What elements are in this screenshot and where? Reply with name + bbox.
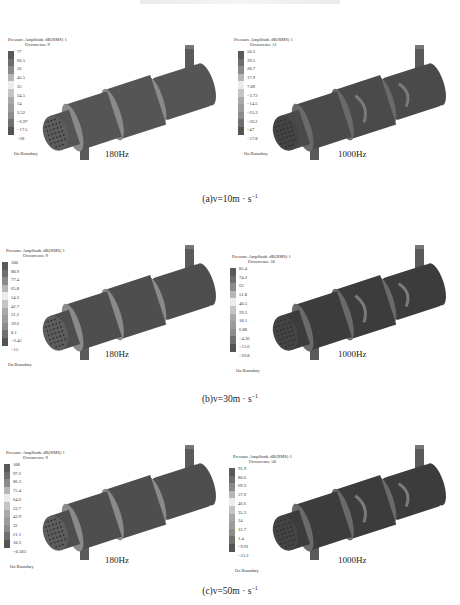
legend-tick-label: 29.3: [239, 310, 247, 315]
color-scale-segment: [4, 510, 10, 518]
legend-tick-label: 3.52: [17, 110, 25, 115]
color-scale-segment: [238, 81, 244, 89]
legend-tick-label: 51.8: [239, 292, 247, 297]
legend-tick-label: 31.2: [11, 312, 19, 317]
legend-title-text: Pressure Amplitude dB(RMS) 1: [6, 450, 65, 455]
legend-tick-label: 24.5: [17, 93, 25, 98]
color-scale-segment: [229, 468, 235, 476]
color-scale-segment: [2, 270, 8, 278]
color-scale: [8, 51, 14, 135]
color-scale-segment: [230, 276, 236, 284]
legend-title-text: Pressure Amplitude dB(RMS) 1: [234, 37, 293, 42]
legend-tick-label: −28: [17, 136, 24, 141]
on-boundary-label: On Boundary: [236, 368, 260, 373]
legend-tick-label: 42.7: [11, 304, 19, 309]
legend-tick-label: −36.2: [247, 119, 258, 124]
on-boundary-label: On Boundary: [244, 151, 268, 156]
color-scale-segment: [229, 514, 235, 522]
legend-title: Pressure Amplitude dB(RMS) 1Occurrence 5…: [234, 37, 293, 48]
color-scale-segment: [229, 498, 235, 506]
legend-subtitle: Occurrence 51: [234, 42, 293, 47]
legend-title-text: Pressure Amplitude dB(RMS) 1: [8, 37, 67, 42]
color-scale-segment: [2, 338, 8, 346]
color-scale-segment: [230, 321, 236, 329]
caption-text: (b)v=30m · s: [202, 394, 252, 404]
on-boundary-label: On Boundary: [8, 362, 32, 367]
color-scale-segment: [4, 517, 10, 525]
contour-panel: Pressure Amplitude dB(RMS) 1Occurrence 9…: [0, 225, 230, 360]
color-scale-segment: [238, 104, 244, 112]
legend-tick-label: 108: [13, 462, 20, 467]
legend-tick-label: −3.72: [247, 93, 258, 98]
color-scale-segment: [8, 97, 14, 105]
caption-text: (c)v=50m · s: [202, 586, 251, 596]
legend-tick-label: 66.5: [17, 58, 25, 63]
legend-tick-label: 63: [239, 283, 244, 288]
caption-exponent: −1: [252, 393, 258, 399]
color-scale-segment: [2, 300, 8, 308]
contour-panel: Pressure Amplitude dB(RMS) 1Occurrence 5…: [230, 25, 460, 160]
legend-tick-label: 45.5: [17, 75, 25, 80]
frequency-label: 1000Hz: [338, 349, 367, 359]
legend-tick-label: 21.1: [13, 532, 21, 537]
color-legend: Pressure Amplitude dB(RMS) 1Occurrence 5…: [230, 425, 340, 560]
color-scale: [230, 268, 236, 352]
color-scale-segment: [8, 81, 14, 89]
legend-tick-label: 65.8: [11, 286, 19, 291]
color-scale-segment: [4, 472, 10, 480]
cropped-header-strip: [140, 0, 340, 4]
outlet-pipe-cap: [415, 245, 424, 249]
legend-tick-label: 18.1: [239, 318, 247, 323]
color-legend: Pressure Amplitude dB(RMS) 1Occurrence 5…: [230, 25, 340, 160]
legend-tick-label: −3.45: [11, 338, 22, 343]
on-boundary-label: On Boundary: [10, 564, 34, 569]
color-scale-segment: [229, 491, 235, 499]
legend-tick-label: 24: [238, 518, 243, 523]
legend-tick-label: −6.97: [17, 119, 28, 124]
legend-tick-label: 77: [17, 49, 22, 54]
color-legend: Pressure Amplitude dB(RMS) 1Occurrence 5…: [230, 225, 340, 360]
subfigure-caption: (a)v=10m · s−1: [130, 194, 330, 204]
on-boundary-label: On Boundary: [14, 151, 38, 156]
legend-tick-label: −47: [247, 127, 254, 132]
color-scale-segment: [2, 308, 8, 316]
color-scale-segment: [2, 277, 8, 285]
color-scale-segment: [229, 483, 235, 491]
legend-tick-label: 64.6: [13, 497, 21, 502]
contour-panel: Pressure Amplitude dB(RMS) 1Occurrence 9…: [0, 425, 230, 560]
color-scale-segment: [229, 476, 235, 484]
legend-tick-label: −15.6: [239, 344, 250, 349]
color-scale-segment: [8, 59, 14, 67]
color-scale-segment: [4, 532, 10, 540]
color-scale-segment: [238, 112, 244, 120]
legend-tick-label: 39.5: [247, 58, 255, 63]
color-scale: [4, 464, 10, 548]
color-scale-segment: [8, 119, 14, 127]
frequency-label: 180Hz: [105, 149, 129, 159]
legend-title: Pressure Amplitude dB(RMS) 1Occurrence 9: [6, 450, 65, 461]
legend-tick-label: 91.9: [238, 466, 246, 471]
color-scale-segment: [229, 544, 235, 552]
legend-title-text: Pressure Amplitude dB(RMS) 1: [232, 254, 291, 259]
legend-tick-label: −9.91: [238, 544, 249, 549]
legend-tick-label: 88.9: [11, 269, 19, 274]
legend-tick-label: −17.5: [17, 127, 28, 132]
contour-panel: Pressure Amplitude dB(RMS) 1Occurrence 5…: [230, 425, 460, 560]
legend-title-text: Pressure Amplitude dB(RMS) 1: [6, 248, 65, 253]
color-scale-segment: [230, 344, 236, 352]
legend-tick-label: −21.2: [238, 553, 249, 558]
legend-tick-label: 85.4: [239, 266, 247, 271]
legend-tick-label: 8.1: [11, 330, 17, 335]
color-scale-segment: [2, 330, 8, 338]
color-scale-segment: [230, 298, 236, 306]
legend-tick-label: 97.2: [13, 471, 21, 476]
legend-tick-label: −14.5: [247, 101, 258, 106]
color-legend: Pressure Amplitude dB(RMS) 1Occurrence 9…: [0, 25, 110, 160]
legend-subtitle: Occurrence 50: [233, 459, 292, 464]
legend-subtitle: Occurrence 9: [6, 455, 65, 460]
color-scale-segment: [8, 104, 14, 112]
legend-subtitle: Occurrence 9: [6, 253, 65, 258]
color-scale-segment: [8, 51, 14, 59]
color-scale-segment: [4, 464, 10, 472]
legend-tick-label: −57.8: [247, 136, 258, 141]
